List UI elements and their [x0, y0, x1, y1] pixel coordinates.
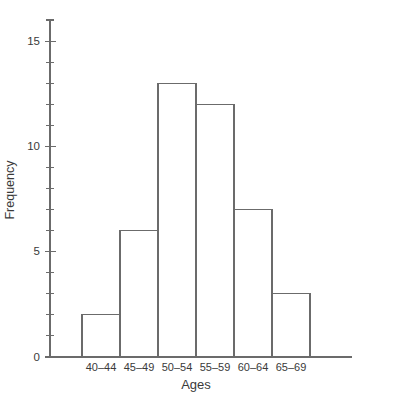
bars — [82, 83, 310, 357]
y-axis-title: Frequency — [3, 160, 17, 220]
histogram-bar — [272, 294, 310, 357]
y-axis-tick-labels: 051015 — [27, 35, 40, 363]
x-tick-label: 60–64 — [238, 361, 269, 373]
x-axis-tick-labels: 40–4445–4950–5455–5960–6465–69 — [86, 361, 307, 373]
y-tick-label: 5 — [34, 245, 40, 257]
histogram-chart: 051015 Frequency 40–4445–4950–5455–5960–… — [0, 0, 419, 401]
x-tick-label: 40–44 — [86, 361, 117, 373]
histogram-bar — [234, 210, 272, 357]
y-tick-label: 0 — [34, 351, 40, 363]
x-tick-label: 45–49 — [124, 361, 155, 373]
x-tick-label: 50–54 — [162, 361, 193, 373]
y-axis: 051015 Frequency — [3, 20, 56, 363]
histogram-bar — [82, 315, 120, 357]
y-tick-label: 10 — [27, 140, 40, 152]
x-tick-label: 55–59 — [200, 361, 231, 373]
x-tick-label: 65–69 — [276, 361, 307, 373]
histogram-bar — [196, 104, 234, 357]
histogram-bar — [158, 83, 196, 357]
chart-canvas: 051015 Frequency 40–4445–4950–5455–5960–… — [0, 0, 419, 401]
x-axis-title: Ages — [181, 377, 211, 392]
y-tick-label: 15 — [27, 35, 40, 47]
histogram-bar — [120, 231, 158, 357]
